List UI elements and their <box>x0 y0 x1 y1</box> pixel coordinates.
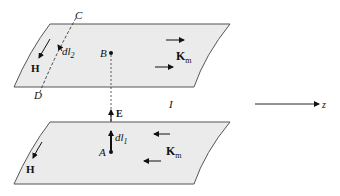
label-h-top: H <box>31 62 40 74</box>
label-i: I <box>168 98 174 110</box>
diagram-svg: C D B dl2 H Km E dl1 A H Km I z <box>0 0 340 196</box>
top-plate <box>14 18 230 92</box>
label-a: A <box>98 146 106 158</box>
label-h-bottom: H <box>26 163 35 175</box>
point-b <box>109 51 113 55</box>
label-c: C <box>75 9 83 21</box>
parallel-plate-diagram: C D B dl2 H Km E dl1 A H Km I z <box>0 0 340 196</box>
label-z: z <box>321 99 326 110</box>
point-a <box>109 150 113 154</box>
label-d: D <box>33 89 42 101</box>
label-e: E <box>116 108 123 119</box>
label-b: B <box>100 47 107 59</box>
